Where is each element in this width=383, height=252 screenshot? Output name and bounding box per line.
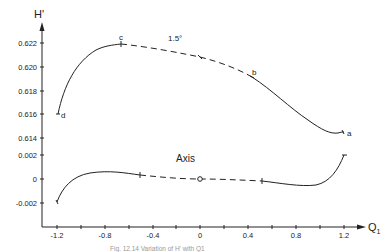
upper-solid-segment-b-a: [252, 77, 344, 133]
origin-marker-icon: [198, 177, 203, 182]
x-tick-label: 1.2: [339, 231, 349, 240]
point-label-d: d: [61, 111, 65, 120]
upper-dashed-segment-c-b: [121, 44, 252, 77]
x-axis-arrow-icon: [357, 225, 366, 230]
point-label-b: b: [252, 68, 257, 77]
y-tick-label: 0: [33, 175, 37, 184]
y-axis-title: H': [34, 8, 44, 20]
y-tick-label: 0.618: [18, 87, 37, 96]
figure-caption: Fig. 12.14 Variation of H' with Q1: [110, 245, 205, 252]
x-tick-label: 0: [198, 231, 202, 240]
x-tick-label: -0.4: [147, 231, 160, 240]
upper-y-ticks: 0.622 0.620 0.618 0.616 0.614: [18, 39, 44, 143]
y-tick-label: -0.002: [16, 199, 37, 208]
angle-annotation: 1.5°: [168, 34, 182, 43]
lower-curve-axis: Axis: [56, 153, 347, 204]
upper-solid-segment-d-c: [58, 44, 121, 114]
x-tick-label: -1.2: [51, 231, 64, 240]
y-tick-label: 0.002: [18, 151, 37, 160]
chart: H' Q1 0.622 0.620 0.618 0.616 0.614 0.00…: [0, 0, 383, 252]
y-tick-label: 0.616: [18, 110, 37, 119]
x-axis-title: Q1: [368, 221, 381, 235]
axes: H' Q1: [34, 8, 381, 235]
lower-solid-left: [57, 172, 140, 202]
point-label-c: c: [119, 33, 123, 42]
x-tick-label: 0.8: [291, 231, 301, 240]
y-tick-label: 0.622: [18, 39, 37, 48]
y-tick-label: 0.614: [18, 134, 37, 143]
x-tick-label: -0.8: [99, 231, 112, 240]
axis-annotation: Axis: [176, 153, 195, 164]
lower-solid-right: [262, 155, 344, 186]
y-tick-label: 0.620: [18, 63, 37, 72]
lower-y-ticks: 0.002 0 -0.002: [16, 151, 44, 208]
y-axis-arrow-icon: [40, 22, 45, 31]
x-tick-label: 0.4: [243, 231, 253, 240]
point-label-a: a: [347, 129, 352, 138]
upper-curve-1-5-deg: a b c d 1.5°: [56, 33, 352, 138]
